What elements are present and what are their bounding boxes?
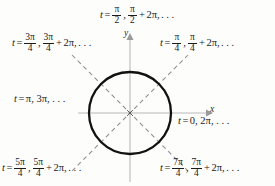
label-upright-plus: + bbox=[199, 38, 205, 49]
label-3pi-over-4: t = 3π 4 , 3π 4 + 2π, . . . bbox=[12, 33, 91, 54]
label-downleft-variable: t bbox=[2, 163, 5, 174]
numerator: π bbox=[189, 33, 196, 43]
numerator: 5π bbox=[14, 158, 26, 168]
label-5pi-over-4: t = 5π 4 , 5π 4 + 2π, . . . bbox=[2, 158, 81, 179]
label-upleft-period: 2π, bbox=[63, 38, 76, 49]
label-upright-equals: = bbox=[164, 38, 170, 49]
label-right-equals: = bbox=[182, 116, 188, 127]
numerator: 3π bbox=[43, 33, 55, 43]
label-downleft-fraction-first: 5π 4 bbox=[14, 158, 26, 179]
x-axis-label: x bbox=[210, 104, 214, 114]
label-upleft-plus: + bbox=[56, 38, 62, 49]
denominator: 2 bbox=[129, 16, 136, 26]
label-downright-period: 2π, bbox=[211, 163, 224, 174]
label-upright-fraction-second: π 4 bbox=[188, 33, 197, 54]
label-upleft-ellipsis: . . . bbox=[78, 38, 91, 49]
label-upleft-variable: t bbox=[12, 38, 15, 49]
label-upright-ellipsis: . . . bbox=[221, 38, 234, 49]
label-7pi-over-4: t = 7π 4 , 7π 4 + 2π, . . . bbox=[160, 158, 239, 179]
label-downleft-ellipsis: . . . bbox=[68, 163, 81, 174]
label-upright-fraction-first: π 4 bbox=[172, 33, 181, 54]
denominator: 4 bbox=[175, 169, 182, 179]
label-downleft-fraction-second: 5π 4 bbox=[33, 158, 45, 179]
label-top-fraction-first: π 2 bbox=[112, 5, 121, 26]
label-downright-comma: , bbox=[186, 163, 189, 174]
label-top-equals: = bbox=[104, 10, 110, 21]
unit-circle-figure: x y t = π 2 , π 2 + 2π, . . . t = bbox=[0, 0, 275, 186]
label-left-variable: t bbox=[14, 94, 17, 105]
label-downleft-plus: + bbox=[46, 163, 52, 174]
label-downright-equals: = bbox=[164, 163, 170, 174]
numerator: 5π bbox=[33, 158, 45, 168]
denominator: 4 bbox=[35, 169, 42, 179]
denominator: 4 bbox=[45, 44, 52, 54]
label-downright-plus: + bbox=[204, 163, 210, 174]
numerator: π bbox=[173, 33, 180, 43]
label-upleft-equals: = bbox=[16, 38, 22, 49]
numerator: π bbox=[113, 5, 120, 15]
label-upleft-fraction-first: 3π 4 bbox=[24, 33, 36, 54]
label-downright-ellipsis: . . . bbox=[226, 163, 239, 174]
label-top-fraction-second: π 2 bbox=[128, 5, 137, 26]
label-upright-period: 2π, bbox=[206, 38, 219, 49]
label-top-comma: , bbox=[123, 10, 126, 21]
numerator: 7π bbox=[172, 158, 184, 168]
numerator: 7π bbox=[191, 158, 203, 168]
label-zero: t = 0, 2π, . . . bbox=[178, 116, 229, 127]
label-left-equals: = bbox=[18, 94, 24, 105]
label-downleft-period: 2π, bbox=[53, 163, 66, 174]
label-downright-variable: t bbox=[160, 163, 163, 174]
label-upleft-fraction-second: 3π 4 bbox=[43, 33, 55, 54]
label-right-variable: t bbox=[178, 116, 181, 127]
label-top-ellipsis: . . . bbox=[161, 10, 174, 21]
label-pi: t = π, 3π, . . . bbox=[14, 94, 65, 105]
denominator: 4 bbox=[27, 44, 34, 54]
label-downleft-equals: = bbox=[6, 163, 12, 174]
label-upright-variable: t bbox=[160, 38, 163, 49]
label-downleft-comma: , bbox=[28, 163, 31, 174]
label-pi-over-2: t = π 2 , π 2 + 2π, . . . bbox=[100, 5, 174, 26]
label-upright-comma: , bbox=[183, 38, 186, 49]
label-upleft-comma: , bbox=[38, 38, 41, 49]
label-top-period: 2π, bbox=[146, 10, 159, 21]
label-downright-fraction-first: 7π 4 bbox=[172, 158, 184, 179]
denominator: 4 bbox=[193, 169, 200, 179]
numerator: 3π bbox=[24, 33, 36, 43]
label-top-plus: + bbox=[139, 10, 145, 21]
denominator: 2 bbox=[113, 16, 120, 26]
label-downright-fraction-second: 7π 4 bbox=[191, 158, 203, 179]
y-axis-label: y bbox=[124, 28, 128, 38]
label-pi-over-4: t = π 4 , π 4 + 2π, . . . bbox=[160, 33, 234, 54]
label-right-text: 0, 2π, . . . bbox=[190, 116, 229, 127]
label-left-text: π, 3π, . . . bbox=[26, 94, 65, 105]
denominator: 4 bbox=[17, 169, 24, 179]
numerator: π bbox=[129, 5, 136, 15]
denominator: 4 bbox=[173, 44, 180, 54]
label-top-variable: t bbox=[100, 10, 103, 21]
denominator: 4 bbox=[189, 44, 196, 54]
